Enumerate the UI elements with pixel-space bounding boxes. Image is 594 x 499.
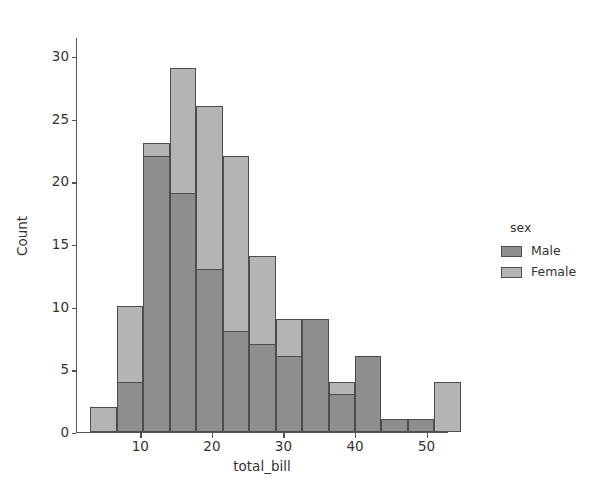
histogram-bar-male (143, 156, 169, 432)
legend-title: sex (510, 222, 589, 235)
histogram-bar-male (302, 319, 328, 432)
legend-items: MaleFemale (509, 241, 589, 283)
y-tick-label: 10 (52, 301, 69, 315)
legend: sex MaleFemale (509, 222, 589, 283)
x-tick-mark (355, 433, 356, 438)
y-axis-title: Count (14, 216, 30, 256)
histogram-bar-male (170, 193, 196, 431)
histogram-bar-male (196, 269, 222, 432)
histogram-bar-male (408, 419, 434, 432)
histogram-bar-male (249, 344, 275, 432)
y-tick-label: 15 (52, 238, 69, 252)
x-tick-label: 50 (418, 440, 435, 454)
y-tick-label: 25 (52, 113, 69, 127)
x-tick-mark (140, 433, 141, 438)
x-tick-label: 10 (132, 440, 149, 454)
y-tick-label: 0 (60, 426, 69, 440)
legend-item[interactable]: Male (509, 241, 589, 262)
y-tick-label: 20 (52, 175, 69, 189)
histogram-bar-male (117, 382, 143, 432)
y-tick-mark (72, 308, 77, 309)
histogram-bar-male (276, 356, 302, 431)
y-tick-label: 5 (60, 364, 69, 378)
x-axis-title: total_bill (76, 458, 448, 474)
histogram-bar-female (434, 382, 460, 432)
plot-axes: 051015202530 1020304050 (76, 38, 448, 433)
histogram-bar-female (90, 407, 116, 432)
histogram-bar-male (329, 394, 355, 432)
x-tick-mark (427, 433, 428, 438)
y-tick-mark (72, 433, 77, 434)
histogram-bar-male (223, 331, 249, 431)
legend-item-label: Male (531, 245, 561, 258)
y-tick-mark (72, 370, 77, 371)
x-tick-label: 40 (346, 440, 363, 454)
legend-swatch-icon (501, 267, 522, 278)
y-axis-spine (76, 38, 77, 433)
figure-canvas: 051015202530 1020304050 total_bill Count… (0, 0, 594, 499)
x-tick-mark (212, 433, 213, 438)
x-tick-mark (283, 433, 284, 438)
histogram-bar-male (381, 419, 407, 432)
legend-item[interactable]: Female (509, 262, 589, 283)
y-tick-mark (72, 182, 77, 183)
y-tick-mark (72, 120, 77, 121)
histogram-bar-male (355, 356, 381, 431)
x-tick-label: 20 (203, 440, 220, 454)
y-tick-mark (72, 57, 77, 58)
y-tick-mark (72, 245, 77, 246)
x-tick-label: 30 (275, 440, 292, 454)
x-axis-spine (76, 432, 448, 433)
y-tick-label: 30 (52, 50, 69, 64)
legend-swatch-icon (501, 246, 522, 257)
legend-item-label: Female (531, 266, 576, 279)
